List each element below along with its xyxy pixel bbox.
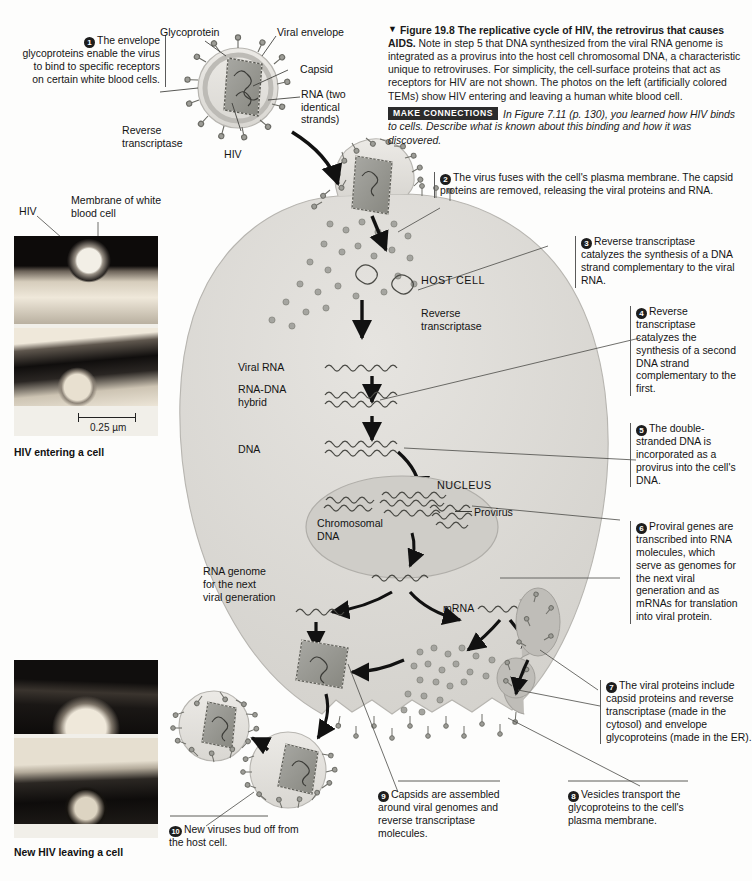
figure-body: Note in step 5 that DNA synthesized from… [388, 38, 740, 101]
scale-bar-label: 0.25 µm [90, 422, 126, 433]
tem-image-hiv-leaving-1 [14, 660, 158, 734]
figure-number: Figure 19.8 [400, 25, 455, 36]
step-callout-2: 2The virus fuses with the cell's plasma … [434, 172, 740, 198]
assembled-capsid [296, 640, 348, 688]
tem-image-hiv-entering-1 [14, 236, 158, 324]
step-callout-1: 1The envelope glycoproteins enable the v… [22, 35, 166, 87]
label-provirus: Provirus [474, 506, 513, 519]
label-rna-dna-hybrid: RNA-DNA hybrid [238, 383, 300, 408]
step-callout-9: 9Capsids are assembled around viral geno… [378, 789, 506, 841]
label-dna: DNA [238, 443, 260, 456]
label-capsid: Capsid [300, 63, 333, 76]
capsid-entering [352, 156, 392, 214]
step-number-1: 1 [84, 37, 95, 48]
step-number-5: 5 [636, 425, 647, 436]
micrograph-label-membrane: Membrane of white blood cell [71, 194, 163, 219]
label-mrna: mRNA [443, 602, 474, 615]
step-text-2: The virus fuses with the cell's plasma m… [440, 172, 733, 196]
label-viral-rna: Viral RNA [238, 361, 284, 374]
step-text-6: Proviral genes are transcribed into RNA … [636, 521, 738, 622]
step-callout-5: 5The double-stranded DNA is incorporated… [630, 423, 740, 487]
label-glycoprotein: Glycoprotein [160, 26, 219, 39]
micrograph-caption-entering: HIV entering a cell [14, 447, 104, 458]
step-text-3: Reverse transcriptase catalyzes the synt… [581, 236, 735, 286]
step-text-8: Vesicles transport the glycoproteins to … [568, 789, 684, 826]
step-callout-10: 10New viruses bud off from the host cell… [169, 824, 309, 850]
step-number-6: 6 [636, 523, 647, 534]
tem-image-hiv-entering-2 [14, 328, 158, 406]
step-callout-7: 7The viral proteins include capsid prote… [600, 680, 752, 744]
label-chromosomal-dna: Chromosomal DNA [317, 517, 395, 542]
micrograph-caption-leaving: New HIV leaving a cell [14, 847, 123, 858]
figure-caption: ▼Figure 19.8 The replicative cycle of HI… [388, 24, 746, 147]
step-number-3: 3 [581, 238, 592, 249]
label-rna-genome: RNA genome for the next viral generation [203, 565, 277, 604]
label-host-cell: HOST CELL [421, 274, 485, 287]
label-nucleus: NUCLEUS [437, 479, 492, 492]
label-hiv: HIV [224, 148, 242, 161]
micrograph-panel-top: 0.25 µm [14, 236, 158, 436]
hiv-particle-detail [198, 48, 278, 128]
step-callout-3: 3Reverse transcriptase catalyzes the syn… [575, 236, 741, 288]
step-text-4: Reverse transcriptase catalyzes the synt… [636, 306, 736, 394]
label-reverse-transcriptase-cell: Reverse transcriptase [421, 307, 505, 332]
step-number-2: 2 [440, 174, 451, 185]
label-viral-envelope: Viral envelope [277, 26, 344, 39]
step-text-9: Capsids are assembled around viral genom… [378, 789, 500, 839]
caption-triangle-icon: ▼ [388, 24, 397, 35]
step-number-4: 4 [636, 308, 647, 319]
arrow-hiv-to-cell [292, 132, 338, 184]
step-text-7: The viral proteins include capsid protei… [606, 680, 752, 743]
step-text-10: New viruses bud off from the host cell. [169, 824, 299, 848]
label-rna-strands: RNA (two identical strands) [301, 88, 369, 126]
make-connections-badge: MAKE CONNECTIONS [388, 107, 498, 121]
label-reverse-transcriptase-virus: Reverse transcriptase [122, 124, 198, 149]
micrograph-label-hiv: HIV [19, 205, 37, 218]
step-number-10: 10 [169, 826, 182, 837]
step-callout-8: 8Vesicles transport the glycoproteins to… [568, 789, 718, 828]
step-number-9: 9 [378, 791, 389, 802]
step-number-8: 8 [568, 791, 579, 802]
step-text-5: The double-stranded DNA is incorporated … [636, 423, 736, 486]
plasma-membrane-glycoproteins [336, 712, 519, 741]
step-callout-4: 4Reverse transcriptase catalyzes the syn… [630, 306, 740, 396]
step-callout-6: 6Proviral genes are transcribed into RNA… [630, 521, 740, 624]
provirus-leader-line [455, 511, 472, 512]
step-number-7: 7 [606, 682, 617, 693]
tem-image-hiv-leaving-2 [14, 738, 158, 824]
micrograph-panel-bottom [14, 660, 158, 838]
